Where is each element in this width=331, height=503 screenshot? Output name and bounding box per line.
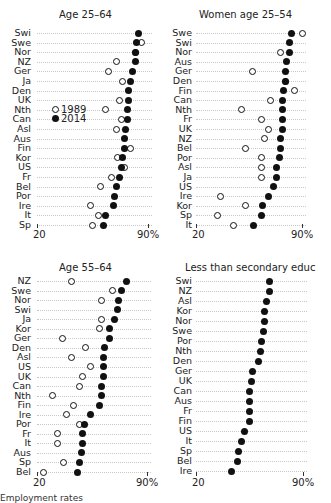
- gridline: [196, 139, 306, 140]
- gridline: [37, 377, 151, 378]
- data-point-1989: [54, 440, 61, 447]
- data-point-2014: [257, 348, 264, 355]
- gridline: [37, 367, 151, 368]
- data-point-2014: [96, 402, 103, 409]
- gridline: [196, 215, 306, 216]
- axis-tick-label: 20: [33, 477, 46, 488]
- data-point-1989: [68, 278, 75, 285]
- gridline: [37, 148, 152, 149]
- data-point-1989: [258, 154, 265, 161]
- gridline: [37, 310, 151, 311]
- panel-title: Women age 25–54: [199, 9, 292, 20]
- axis-tick: [196, 472, 197, 476]
- data-point-2014: [81, 421, 88, 428]
- gridline: [37, 167, 152, 168]
- data-point-2014: [249, 368, 256, 375]
- data-point-1989: [238, 106, 245, 113]
- data-point-2014: [228, 468, 235, 475]
- data-point-2014: [248, 378, 255, 385]
- data-point-1989: [261, 135, 268, 142]
- gridline: [37, 386, 151, 387]
- gridline: [196, 177, 306, 178]
- data-point-2014: [121, 135, 128, 142]
- gridline: [37, 405, 151, 406]
- gridline: [37, 158, 152, 159]
- gridline: [37, 329, 151, 330]
- gridline: [37, 281, 151, 282]
- data-point-1989: [265, 126, 272, 133]
- gridline: [196, 351, 307, 352]
- data-point-2014: [258, 338, 265, 345]
- data-point-2014: [87, 411, 94, 418]
- data-point-2014: [106, 335, 113, 342]
- gridline: [196, 311, 307, 312]
- axis-tick-label: 90%: [137, 229, 159, 240]
- data-point-1989: [291, 87, 298, 94]
- data-point-1989: [82, 344, 89, 351]
- data-point-1989: [40, 469, 47, 476]
- data-point-2014: [79, 430, 86, 437]
- data-point-1989: [98, 297, 105, 304]
- data-point-1989: [109, 287, 116, 294]
- gridline: [196, 91, 306, 92]
- axis-tick-label: 20: [192, 477, 205, 488]
- gridline: [196, 206, 306, 207]
- gridline: [37, 424, 151, 425]
- data-point-2014: [113, 183, 120, 190]
- data-point-2014: [273, 164, 280, 171]
- gridline: [196, 461, 307, 462]
- data-point-2014: [273, 174, 280, 181]
- data-point-2014: [261, 318, 268, 325]
- data-point-1989: [97, 183, 104, 190]
- panel-title: Less than secondary educ: [185, 262, 315, 273]
- data-point-1989: [102, 106, 109, 113]
- gridline: [196, 331, 307, 332]
- data-point-2014: [279, 106, 286, 113]
- data-point-2014: [277, 145, 284, 152]
- axis-tick-label: 90%: [136, 477, 158, 488]
- gridline: [37, 139, 152, 140]
- data-point-1989: [59, 335, 66, 342]
- gridline: [196, 148, 306, 149]
- data-point-2014: [111, 193, 118, 200]
- data-point-2014: [279, 126, 286, 133]
- gridline: [37, 206, 152, 207]
- data-point-1989: [87, 202, 94, 209]
- gridline: [37, 462, 151, 463]
- data-point-2014: [129, 68, 136, 75]
- data-point-1989: [116, 97, 123, 104]
- data-point-2014: [115, 297, 122, 304]
- data-point-1989: [113, 58, 120, 65]
- data-point-2014: [246, 408, 253, 415]
- data-point-2014: [246, 418, 253, 425]
- data-point-2014: [261, 308, 268, 315]
- data-point-2014: [266, 288, 273, 295]
- data-point-2014: [259, 202, 266, 209]
- gridline: [196, 110, 306, 111]
- data-point-1989: [242, 145, 249, 152]
- data-point-1989: [79, 373, 86, 380]
- data-point-1989: [217, 193, 224, 200]
- data-point-2014: [265, 193, 272, 200]
- data-point-2014: [119, 154, 126, 161]
- data-point-1989: [108, 174, 115, 181]
- data-point-2014: [74, 469, 81, 476]
- data-point-2014: [241, 428, 248, 435]
- data-point-2014: [76, 459, 83, 466]
- data-point-1989: [277, 49, 284, 56]
- country-label: It: [162, 220, 192, 230]
- axis-tick: [37, 472, 38, 476]
- gridline: [196, 451, 307, 452]
- data-point-2014: [234, 458, 241, 465]
- data-point-2014: [102, 212, 109, 219]
- data-point-1989: [76, 383, 83, 390]
- data-point-1989: [214, 212, 221, 219]
- gridline: [196, 281, 307, 282]
- data-point-2014: [121, 145, 128, 152]
- data-point-1989: [113, 126, 120, 133]
- data-point-1989: [258, 174, 265, 181]
- data-point-1989: [60, 459, 67, 466]
- data-point-2014: [78, 449, 85, 456]
- gridline: [196, 321, 307, 322]
- data-point-1989: [119, 78, 126, 85]
